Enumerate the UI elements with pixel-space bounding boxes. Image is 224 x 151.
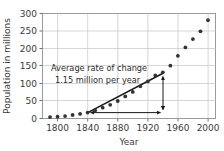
data-point	[101, 106, 105, 110]
data-point	[176, 54, 180, 58]
x-tick-label-1840: 1840	[76, 123, 99, 133]
data-point	[199, 29, 203, 33]
y-tick-label-250: 250	[20, 26, 37, 36]
data-point	[184, 46, 188, 50]
y-tick-label-100: 100	[20, 79, 37, 89]
annotation-line-2: 1.15 million per year	[55, 75, 141, 85]
data-point	[63, 114, 67, 118]
data-point	[146, 80, 150, 84]
y-tick-label-300: 300	[20, 9, 37, 19]
x-tick-label-1800: 1800	[46, 123, 69, 133]
chart-svg: 0 50 100 150 200 250 300 1800 1840 1880 …	[0, 0, 224, 151]
data-point	[108, 103, 112, 107]
x-tick-label-2000: 2000	[197, 123, 220, 133]
data-point	[86, 111, 90, 115]
data-point	[71, 113, 75, 117]
population-chart-figure: 0 50 100 150 200 250 300 1800 1840 1880 …	[0, 0, 224, 151]
data-point	[138, 84, 142, 88]
x-axis-title: Year	[118, 137, 138, 147]
x-tick-label-1880: 1880	[106, 123, 129, 133]
data-point	[56, 115, 60, 119]
y-tick-label-200: 200	[20, 44, 37, 54]
x-tick-label-1960: 1960	[167, 123, 190, 133]
data-point	[93, 109, 97, 113]
data-point	[48, 115, 52, 119]
data-point	[123, 95, 127, 99]
y-axis-title: Population in millions	[2, 18, 12, 114]
y-tick-label-50: 50	[26, 96, 38, 106]
data-point	[116, 99, 120, 103]
x-tick-label-1920: 1920	[136, 123, 159, 133]
data-point	[168, 64, 172, 68]
y-tick-label-0: 0	[31, 114, 37, 124]
data-point	[206, 18, 210, 22]
annotation-line-1: Average rate of change	[51, 63, 147, 73]
data-point	[161, 70, 165, 74]
data-point	[78, 112, 82, 116]
data-point	[131, 90, 135, 94]
data-point	[191, 37, 195, 41]
y-tick-label-150: 150	[20, 61, 37, 71]
data-point	[153, 74, 157, 78]
